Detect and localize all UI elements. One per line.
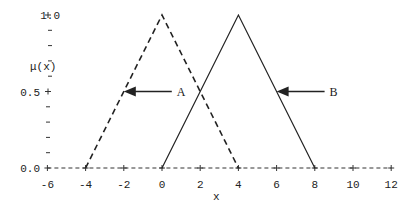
x-tick-label: 2 <box>197 179 204 191</box>
y-tick-label: 1.0 <box>40 10 60 22</box>
annotation-label-a: A <box>177 85 186 99</box>
x-tick-label: -6 <box>41 179 54 191</box>
y-tick-label: 0.0 <box>20 163 40 175</box>
x-tick-label: 6 <box>273 179 280 191</box>
x-tick-label: 8 <box>311 179 318 191</box>
x-axis-label: x <box>213 191 220 203</box>
axes: -6-4-20246810120.00.51.0 <box>20 10 398 191</box>
x-tick-label: 4 <box>235 179 242 191</box>
x-tick-label: -2 <box>117 179 130 191</box>
x-tick-label: 10 <box>346 179 359 191</box>
x-tick-label: 0 <box>159 179 166 191</box>
y-tick-label: 0.5 <box>20 87 40 99</box>
x-tick-label: -4 <box>79 179 93 191</box>
y-axis-label: μ(x) <box>30 61 56 73</box>
x-tick-label: 12 <box>385 179 398 191</box>
membership-chart: -6-4-20246810120.00.51.0 AB μ(x) x <box>0 0 402 211</box>
annotation-label-b: B <box>330 85 338 99</box>
annotations: AB <box>124 85 338 99</box>
arrowhead-icon <box>124 87 136 97</box>
